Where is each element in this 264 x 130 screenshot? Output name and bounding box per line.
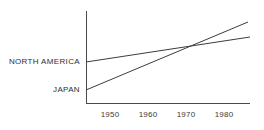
- series-line-north-america: [86, 37, 250, 62]
- x-tick-label: 1970: [177, 110, 196, 119]
- series-line-japan: [86, 22, 248, 90]
- chart-canvas: 1950196019701980 NORTH AMERICAJAPAN: [0, 0, 264, 130]
- series-label-north-america: NORTH AMERICA: [9, 57, 80, 66]
- series-labels: NORTH AMERICAJAPAN: [9, 57, 80, 94]
- series-label-japan: JAPAN: [53, 85, 80, 94]
- x-axis-tick-labels: 1950196019701980: [101, 110, 234, 119]
- axes-group: [87, 11, 251, 104]
- x-tick-label: 1950: [101, 110, 120, 119]
- x-tick-label: 1980: [215, 110, 234, 119]
- line-chart: 1950196019701980 NORTH AMERICAJAPAN: [0, 0, 264, 130]
- x-tick-label: 1960: [139, 110, 158, 119]
- series-group: [86, 22, 250, 90]
